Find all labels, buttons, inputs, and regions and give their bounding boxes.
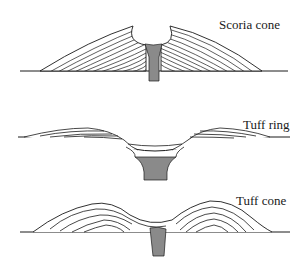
- tuff-ring-panel: [18, 128, 290, 180]
- tuff-ring-conduit: [135, 157, 176, 180]
- tuff-cone-conduit: [150, 227, 166, 256]
- scoria-right-flank: [160, 26, 262, 74]
- tuff-ring-crater-floor: [128, 144, 182, 146]
- scoria-conduit: [145, 44, 162, 81]
- scoria-left-flank: [40, 26, 148, 74]
- tuff-ring-label: Tuff ring: [243, 118, 290, 131]
- scoria-cone-label: Scoria cone: [219, 18, 280, 31]
- diagram-canvas: [0, 0, 306, 271]
- tuff-ring-left-rim: [24, 128, 138, 150]
- scoria-cone-panel: [20, 26, 288, 81]
- tuff-cone-label: Tuff cone: [236, 194, 286, 207]
- tuff-cone-panel: [20, 201, 290, 256]
